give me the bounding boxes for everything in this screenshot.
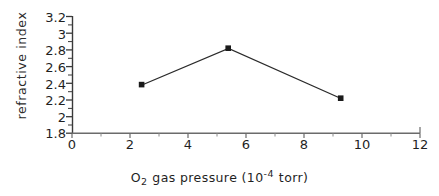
data-point-marker[interactable] xyxy=(338,95,344,101)
plot-area xyxy=(0,0,439,196)
series-line xyxy=(142,49,341,99)
data-point-marker[interactable] xyxy=(139,82,145,88)
axes xyxy=(72,16,420,134)
data-point-marker[interactable] xyxy=(225,45,231,51)
y-axis-minor-ticks xyxy=(68,25,72,125)
x-axis-major-ticks xyxy=(72,133,420,138)
chart-figure: refractive index 3.2 3 2.8 2.6 2.4 2.2 2… xyxy=(0,0,439,196)
data-series-refractive-index xyxy=(139,45,344,101)
